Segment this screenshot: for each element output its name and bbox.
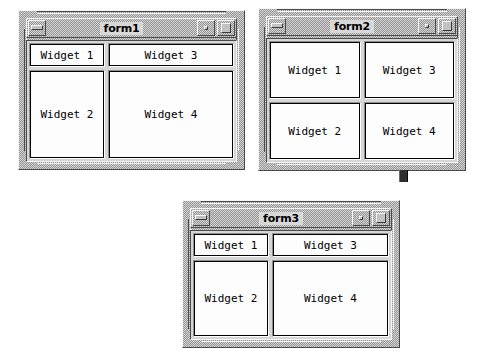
titlebar-spacer-right	[374, 17, 417, 35]
titlebar-title-wrap: form2	[330, 17, 374, 35]
desktop-canvas: form1 Widget 1 Widget 3 Widget 2 Widget …	[0, 0, 481, 364]
titlebar-title-wrap: form3	[259, 209, 303, 227]
window-bottom-handle[interactable]	[399, 170, 408, 182]
window-title: form2	[330, 20, 374, 33]
maximize-button[interactable]	[438, 18, 456, 34]
widget-cell[interactable]: Widget 2	[193, 260, 269, 337]
maximize-button[interactable]	[372, 210, 390, 226]
window-title: form1	[100, 22, 144, 35]
resize-grip-top[interactable]	[201, 201, 381, 204]
widget-cell[interactable]: Widget 1	[269, 41, 361, 99]
minimize-button[interactable]	[352, 210, 370, 226]
widget-grid: Widget 1 Widget 3 Widget 2 Widget 4	[193, 233, 389, 337]
widget-cell[interactable]: Widget 4	[108, 70, 234, 159]
window-title: form3	[259, 212, 303, 225]
window-menu-button[interactable]	[192, 210, 210, 226]
widget-cell[interactable]: Widget 3	[364, 41, 456, 99]
window-menu-button[interactable]	[28, 20, 46, 36]
titlebar-spacer-right	[303, 209, 351, 227]
widget-cell[interactable]: Widget 2	[269, 102, 361, 160]
minimize-icon	[359, 216, 363, 220]
maximize-icon	[376, 213, 386, 223]
titlebar-spacer-left	[211, 209, 259, 227]
client-area-form2: Widget 1 Widget 3 Widget 2 Widget 4	[266, 38, 458, 163]
titlebar-spacer-left	[287, 17, 330, 35]
widget-cell[interactable]: Widget 3	[108, 43, 234, 67]
titlebar-spacer-right	[143, 19, 196, 37]
minimize-button[interactable]	[197, 20, 215, 36]
maximize-icon	[221, 23, 231, 33]
client-area-form3: Widget 1 Widget 3 Widget 2 Widget 4	[190, 230, 392, 340]
widget-cell[interactable]: Widget 4	[364, 102, 456, 160]
titlebar-spacer-left	[47, 19, 100, 37]
minimize-icon	[425, 24, 429, 28]
widget-grid: Widget 1 Widget 3 Widget 2 Widget 4	[29, 43, 234, 159]
window-form2[interactable]: form2 Widget 1 Widget 3 Widget 2 Widget …	[258, 8, 466, 171]
widget-cell[interactable]: Widget 1	[193, 233, 269, 257]
minimize-icon	[204, 26, 208, 30]
widget-cell[interactable]: Widget 2	[29, 70, 105, 159]
widget-grid: Widget 1 Widget 3 Widget 2 Widget 4	[269, 41, 455, 160]
window-menu-icon	[31, 25, 43, 30]
client-area-form1: Widget 1 Widget 3 Widget 2 Widget 4	[26, 40, 237, 162]
window-form3[interactable]: form3 Widget 1 Widget 3 Widget 2 Widget …	[182, 200, 400, 348]
widget-cell[interactable]: Widget 4	[272, 260, 389, 337]
widget-cell[interactable]: Widget 1	[29, 43, 105, 67]
widget-cell[interactable]: Widget 3	[272, 233, 389, 257]
resize-grip-top[interactable]	[37, 11, 226, 14]
titlebar-form2[interactable]: form2	[266, 16, 458, 36]
window-menu-button[interactable]	[268, 18, 286, 34]
maximize-icon	[442, 21, 452, 31]
minimize-button[interactable]	[418, 18, 436, 34]
titlebar-form1[interactable]: form1	[26, 18, 237, 38]
titlebar-form3[interactable]: form3	[190, 208, 392, 228]
resize-grip-top[interactable]	[277, 9, 447, 12]
window-menu-icon	[195, 215, 207, 220]
titlebar-title-wrap: form1	[100, 19, 144, 37]
window-form1[interactable]: form1 Widget 1 Widget 3 Widget 2 Widget …	[18, 10, 245, 170]
window-menu-icon	[271, 23, 283, 28]
maximize-button[interactable]	[217, 20, 235, 36]
